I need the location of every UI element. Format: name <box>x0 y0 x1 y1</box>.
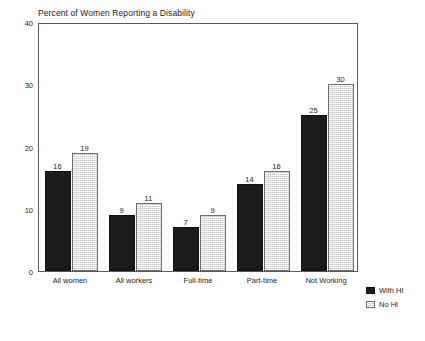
y-tick-label: 0 <box>29 268 33 277</box>
bar-value-label: 14 <box>245 175 253 184</box>
bar-value-label: 25 <box>309 106 317 115</box>
x-tick-label-part-time: Part-time <box>247 276 277 285</box>
legend-swatch-icon <box>366 301 375 308</box>
bar-with-hi-part-time <box>237 184 263 271</box>
legend-item-with-hi: With HI <box>366 284 404 296</box>
bar-chart: Percent of Women Reporting a Disability … <box>0 0 425 341</box>
bar-no-hi-full-time <box>200 215 226 271</box>
y-tick-label: 30 <box>25 81 33 90</box>
y-axis: 010203040 <box>0 0 38 341</box>
legend-label: No HI <box>379 300 398 309</box>
bar-with-hi-not-working <box>301 115 327 271</box>
x-tick-label-not-working: Not Working <box>305 276 346 285</box>
x-axis: All womenAll workersFull-timePart-timeNo… <box>38 276 358 292</box>
bar-with-hi-all-workers <box>109 215 135 271</box>
bar-value-label: 9 <box>210 206 214 215</box>
bar-no-hi-all-workers <box>136 203 162 271</box>
y-tick-label: 40 <box>25 19 33 28</box>
bar-with-hi-all-women <box>45 171 71 271</box>
bar-value-label: 9 <box>119 206 123 215</box>
bars-layer: 16199117914162530 <box>39 24 357 271</box>
y-tick-label: 20 <box>25 143 33 152</box>
chart-legend: With HINo HI <box>366 284 404 312</box>
bar-value-label: 16 <box>53 162 61 171</box>
bar-value-label: 11 <box>145 194 153 203</box>
x-tick-label-all-workers: All workers <box>116 276 153 285</box>
y-tick-label: 10 <box>25 205 33 214</box>
bar-value-label: 16 <box>272 162 280 171</box>
bar-value-label: 7 <box>183 218 187 227</box>
bar-no-hi-not-working <box>328 84 354 271</box>
legend-swatch-icon <box>366 287 375 294</box>
bar-value-label: 30 <box>336 75 344 84</box>
x-tick-label-full-time: Full-time <box>184 276 213 285</box>
legend-item-no-hi: No HI <box>366 298 404 310</box>
bar-no-hi-all-women <box>72 153 98 271</box>
bar-with-hi-full-time <box>173 227 199 271</box>
plot-area: 16199117914162530 <box>38 23 358 272</box>
x-tick-label-all-women: All women <box>53 276 88 285</box>
bar-value-label: 19 <box>80 144 88 153</box>
legend-label: With HI <box>379 286 404 295</box>
chart-title: Percent of Women Reporting a Disability <box>38 8 195 18</box>
bar-no-hi-part-time <box>264 171 290 271</box>
